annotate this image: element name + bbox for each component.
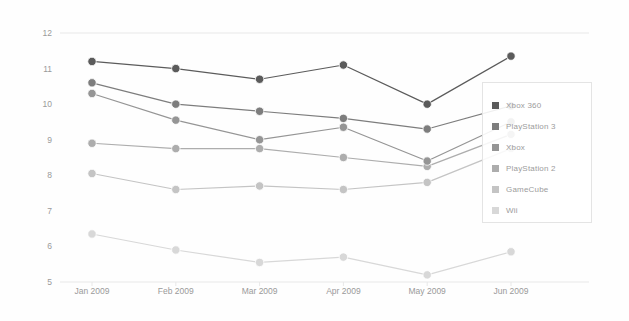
series-line xyxy=(92,56,511,104)
data-point xyxy=(255,258,263,266)
data-point xyxy=(172,116,180,124)
series-line xyxy=(92,149,511,190)
data-point xyxy=(172,144,180,152)
legend-label: PlayStation 2 xyxy=(506,164,556,173)
data-point xyxy=(255,75,263,83)
data-point xyxy=(507,248,515,256)
data-point xyxy=(255,144,263,152)
data-point xyxy=(423,100,431,108)
legend-item[interactable]: PlayStation 3 xyxy=(492,116,591,137)
data-point xyxy=(423,125,431,133)
legend-swatch-icon xyxy=(492,165,499,172)
data-point xyxy=(339,114,347,122)
data-point xyxy=(88,230,96,238)
legend-item[interactable]: Xbox 360 xyxy=(492,95,591,116)
legend-item[interactable]: Xbox xyxy=(492,137,591,158)
series-line xyxy=(92,234,511,275)
y-axis-ticks: 12111098765 xyxy=(28,33,52,282)
y-tick-label: 6 xyxy=(30,241,52,251)
x-tick-label: Jan 2009 xyxy=(52,286,132,296)
data-point xyxy=(255,107,263,115)
y-tick-label: 8 xyxy=(30,170,52,180)
series-line xyxy=(92,93,511,161)
legend-swatch-icon xyxy=(492,144,499,151)
legend-item[interactable]: PlayStation 2 xyxy=(492,158,591,179)
y-tick-label: 7 xyxy=(30,206,52,216)
legend-item[interactable]: Wii xyxy=(492,200,591,221)
y-tick-label: 10 xyxy=(30,99,52,109)
legend-label: Xbox 360 xyxy=(506,101,541,110)
legend-swatch-icon xyxy=(492,207,499,214)
legend-item[interactable]: GameCube xyxy=(492,179,591,200)
data-point xyxy=(339,123,347,131)
legend-label: GameCube xyxy=(506,185,549,194)
legend-swatch-icon xyxy=(492,102,499,109)
x-tick-label: Jun 2009 xyxy=(471,286,551,296)
chart-legend: Xbox 360PlayStation 3XboxPlayStation 2Ga… xyxy=(482,82,592,223)
y-tick-label: 5 xyxy=(30,277,52,287)
data-point xyxy=(88,169,96,177)
x-tick-label: Feb 2009 xyxy=(136,286,216,296)
x-tick-label: Apr 2009 xyxy=(303,286,383,296)
legend-label: Xbox xyxy=(506,143,525,152)
legend-swatch-icon xyxy=(492,186,499,193)
data-point xyxy=(339,253,347,261)
data-point xyxy=(339,61,347,69)
x-axis-ticks: Jan 2009Feb 2009Mar 2009Apr 2009May 2009… xyxy=(60,286,589,306)
data-point xyxy=(339,153,347,161)
data-point xyxy=(255,182,263,190)
data-point xyxy=(339,185,347,193)
data-point xyxy=(88,79,96,87)
data-point xyxy=(172,100,180,108)
data-point xyxy=(88,89,96,97)
data-point xyxy=(423,178,431,186)
data-point xyxy=(423,157,431,165)
series-line xyxy=(92,134,511,166)
data-point xyxy=(172,64,180,72)
legend-label: Wii xyxy=(506,206,518,215)
data-point xyxy=(88,139,96,147)
data-point xyxy=(255,136,263,144)
x-tick-label: Mar 2009 xyxy=(220,286,300,296)
y-tick-label: 9 xyxy=(30,135,52,145)
legend-swatch-icon xyxy=(492,123,499,130)
y-tick-label: 11 xyxy=(30,64,52,74)
y-tick-label: 12 xyxy=(30,28,52,38)
series-line xyxy=(92,83,511,129)
data-point xyxy=(88,57,96,65)
data-point xyxy=(423,271,431,279)
legend-label: PlayStation 3 xyxy=(506,122,556,131)
data-point xyxy=(507,52,515,60)
data-point xyxy=(172,185,180,193)
line-chart: Active User % 12111098765 Jan 2009Feb 20… xyxy=(0,0,629,321)
data-point xyxy=(172,246,180,254)
x-tick-label: May 2009 xyxy=(387,286,467,296)
